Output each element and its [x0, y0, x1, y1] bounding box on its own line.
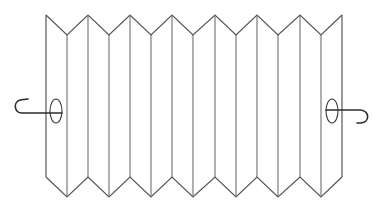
pleated-sheet-diagram: [0, 0, 388, 217]
left-handle-ring-icon: [50, 99, 62, 123]
top-zigzag-edge: [46, 15, 342, 35]
right-crank-handle: [326, 99, 368, 123]
bottom-zigzag-edge: [46, 177, 342, 197]
fold-lines: [46, 15, 342, 197]
right-handle-ring-icon: [326, 99, 338, 123]
left-crank-handle: [15, 99, 62, 123]
right-hook-icon: [326, 110, 368, 123]
left-hook-icon: [15, 99, 62, 113]
